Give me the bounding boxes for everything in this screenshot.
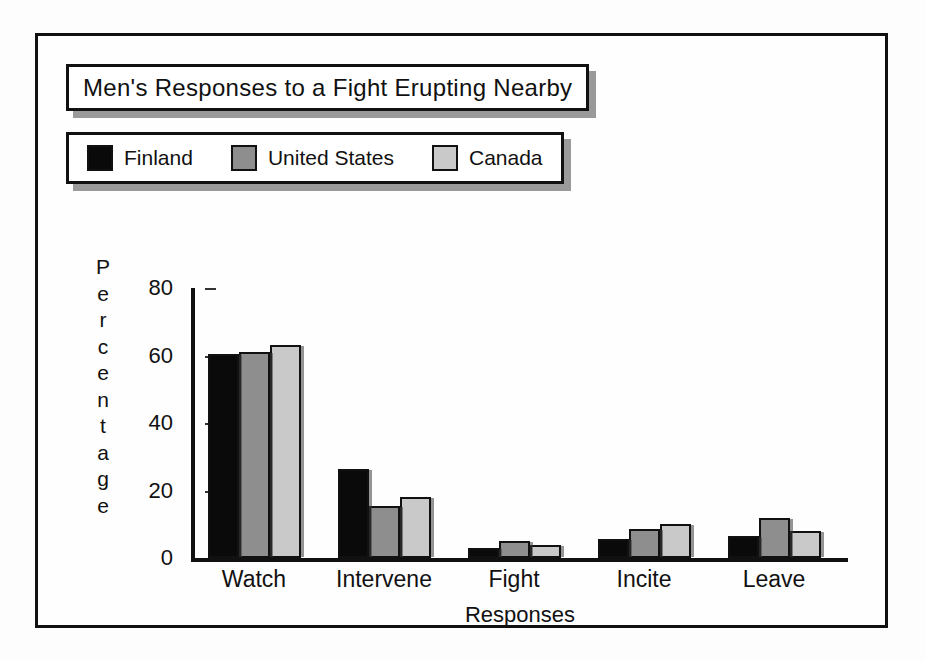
bar	[270, 345, 301, 558]
chart-title-box: Men's Responses to a Fight Erupting Near…	[66, 64, 589, 111]
y-axis-title-letter: e	[97, 493, 109, 520]
y-tick-label: 40	[149, 410, 173, 436]
y-axis-title-letter: g	[97, 466, 109, 493]
bar	[660, 524, 691, 558]
legend-label-canada: Canada	[469, 146, 543, 170]
x-tick-label: Watch	[222, 566, 286, 593]
x-axis-ticks: WatchInterveneFightInciteLeave	[195, 566, 845, 600]
bar	[208, 354, 239, 558]
bar	[728, 536, 759, 558]
bar	[759, 518, 790, 559]
x-tick-label: Fight	[488, 566, 539, 593]
bar-group	[728, 268, 821, 558]
bar-group	[208, 268, 301, 558]
y-axis-title-letter: e	[97, 281, 109, 308]
y-axis-title-letter: n	[97, 387, 109, 414]
x-axis-title: Responses	[195, 602, 845, 628]
legend-item-united-states: United States	[231, 145, 394, 171]
plot-region: Percentage 020406080 WatchInterveneFight…	[93, 224, 863, 604]
legend-item-canada: Canada	[432, 145, 543, 171]
bar	[338, 469, 369, 558]
legend-label-united-states: United States	[268, 146, 394, 170]
legend-item-finland: Finland	[87, 145, 193, 171]
bar	[369, 506, 400, 558]
chart-legend: Finland United States Canada	[66, 132, 564, 184]
legend-swatch-united-states-icon	[231, 145, 257, 171]
y-tick-label: 20	[149, 478, 173, 504]
bar-group	[598, 268, 691, 558]
y-tick-label: 60	[149, 343, 173, 369]
y-axis-title-letter: c	[98, 334, 109, 361]
legend-label-finland: Finland	[124, 146, 193, 170]
x-tick-label: Incite	[617, 566, 672, 593]
legend-swatch-canada-icon	[432, 145, 458, 171]
bar	[499, 541, 530, 558]
y-axis-ticks: 020406080	[117, 224, 179, 574]
x-tick-label: Leave	[743, 566, 806, 593]
y-axis-title-letter: e	[97, 360, 109, 387]
y-tick-label: 80	[149, 275, 173, 301]
page-title: Men's Responses to a Fight Erupting Near…	[83, 74, 572, 102]
y-axis-title-letter: P	[96, 254, 110, 281]
y-axis-title-letter: t	[100, 413, 106, 440]
bar	[790, 531, 821, 558]
bar	[629, 529, 660, 558]
bar-group	[338, 268, 431, 558]
bar	[468, 548, 499, 558]
x-tick-label: Intervene	[336, 566, 432, 593]
bar	[400, 497, 431, 558]
bar	[530, 545, 561, 559]
y-axis-title: Percentage	[93, 254, 113, 519]
bar	[239, 352, 270, 558]
bar	[598, 539, 629, 558]
y-axis-title-letter: r	[100, 307, 107, 334]
x-axis-line	[191, 558, 848, 562]
bar-group	[468, 268, 561, 558]
legend-swatch-finland-icon	[87, 145, 113, 171]
y-axis-title-letter: a	[97, 440, 109, 467]
figure-frame: Men's Responses to a Fight Erupting Near…	[35, 33, 888, 628]
y-tick-label: 0	[161, 545, 173, 571]
bars-area	[195, 268, 845, 558]
